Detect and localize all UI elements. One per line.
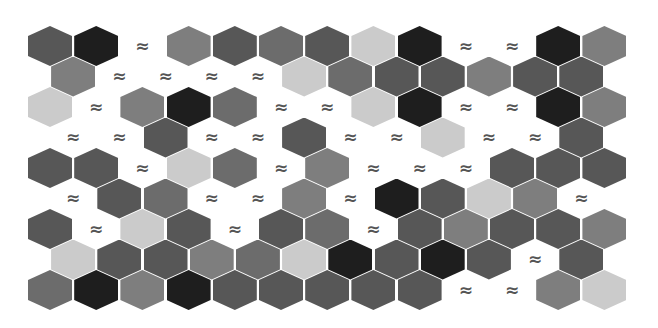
hex-board: ≈≈≈≈≈≈≈≈≈≈≈≈≈≈≈≈≈≈≈≈≈≈≈≈≈≈≈≈≈≈≈≈≈≈≈≈ [0, 0, 658, 328]
water-tile[interactable]: ≈ [444, 270, 488, 310]
water-tile[interactable]: ≈ [490, 270, 534, 310]
